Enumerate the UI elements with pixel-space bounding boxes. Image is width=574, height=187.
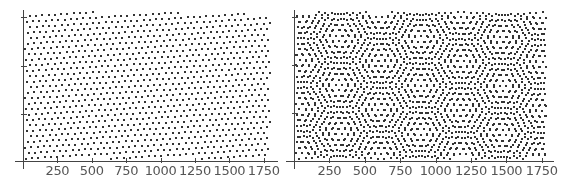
left-chart-panel: 2505007501000125015001750 bbox=[0, 0, 287, 187]
right-chart-panel: 2505007501000125015001750 bbox=[284, 0, 571, 187]
x-tick-label: 750 bbox=[388, 163, 412, 178]
x-tick-label: 500 bbox=[353, 163, 377, 178]
x-tick-label: 250 bbox=[317, 163, 341, 178]
x-tick-label: 250 bbox=[45, 163, 69, 178]
x-tick-label: 1250 bbox=[179, 163, 211, 178]
x-tick-label: 1500 bbox=[213, 163, 245, 178]
x-tick-label: 1000 bbox=[145, 163, 177, 178]
x-tick-label: 1500 bbox=[490, 163, 522, 178]
right-moire-plot bbox=[284, 0, 574, 187]
x-tick-label: 1250 bbox=[455, 163, 487, 178]
x-tick-label: 1000 bbox=[420, 163, 452, 178]
left-lattice-plot bbox=[0, 0, 287, 187]
x-tick-label: 750 bbox=[114, 163, 138, 178]
x-tick-label: 500 bbox=[80, 163, 104, 178]
x-tick-label: 1750 bbox=[526, 163, 558, 178]
x-tick-label: 1750 bbox=[248, 163, 280, 178]
